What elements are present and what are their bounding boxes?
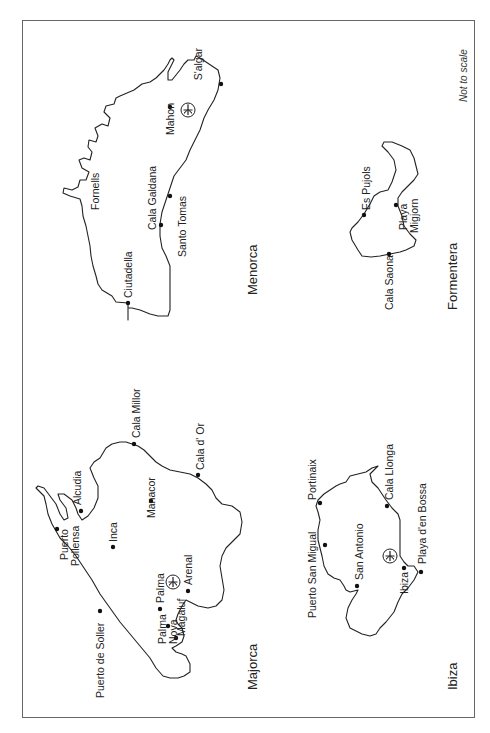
label-fornells: Fornells xyxy=(89,173,101,210)
label-salgar: S'algar xyxy=(192,47,204,80)
town-dot-portinaix xyxy=(318,501,322,505)
island-menorca: S'algar Mahon Cala Galdana Santo Tomas F… xyxy=(63,47,260,320)
label-playa-den-bossa: Playa d'en Bossa xyxy=(416,483,428,564)
label-ibiza-town: Ibiza xyxy=(398,572,410,594)
island-label-majorca: Majorca xyxy=(245,643,260,690)
town-dot-playa-den-bossa xyxy=(419,570,423,574)
town-dot-puerto-de-soller xyxy=(98,609,102,613)
town-dot-santo-tomas xyxy=(168,194,172,198)
town-dot-palma xyxy=(158,607,162,611)
town-dot-cala-millor xyxy=(132,442,136,446)
menorca-coastline xyxy=(63,56,220,320)
town-dot-puerto-san-migual xyxy=(323,543,327,547)
label-cala-galdana: Cala Galdana xyxy=(146,166,158,230)
island-formentera: Es Pujols Playa Migjorn Cala Saona Forme… xyxy=(350,142,460,310)
label-cala-dor: Cala d' Or xyxy=(194,423,206,470)
town-dot-cala-dor xyxy=(196,473,200,477)
label-mahon: Mahon xyxy=(164,103,176,135)
town-dot-alcudia xyxy=(79,509,83,513)
label-migjorn: Migjorn xyxy=(408,198,420,233)
town-dot-es-pujols xyxy=(362,213,366,217)
town-dot-cala-galdana xyxy=(159,223,163,227)
label-pollensa: Pollensa xyxy=(69,526,81,566)
label-manacor: Manacor xyxy=(145,477,157,518)
airport-icon-majorca xyxy=(166,575,180,589)
airport-icon-ibiza xyxy=(383,549,397,563)
label-ciutadella: Ciutadella xyxy=(122,251,134,298)
balearic-islands-map: S'algar Mahon Cala Galdana Santo Tomas F… xyxy=(0,0,490,733)
town-dot-arenal xyxy=(186,589,190,593)
label-cala-saona: Cala Saona xyxy=(383,255,395,310)
island-label-menorca: Menorca xyxy=(245,244,260,295)
town-dot-ibiza-town xyxy=(402,566,406,570)
label-palma: Palma xyxy=(154,573,166,603)
island-majorca: Cala Millor Cala d' Or Alcudia Manacor P… xyxy=(36,388,260,698)
label-palma-nova-line2: Nova xyxy=(167,619,179,644)
island-label-formentera: Formentera xyxy=(445,242,460,310)
not-to-scale-note: Not to scale xyxy=(458,49,469,102)
town-dot-salgar xyxy=(219,82,223,86)
label-puerto-san-migual: Puerto San Migual xyxy=(306,532,318,618)
label-cala-llonga: Cala Llonga xyxy=(383,444,395,500)
label-san-antonio: San Antonio xyxy=(353,523,365,580)
town-dot-cala-llonga xyxy=(385,504,389,508)
label-puerto-de-soller: Puerto de Soller xyxy=(94,622,106,698)
island-ibiza: Portinaix Cala Llonga Puerto San Migual … xyxy=(306,444,460,690)
town-dot-san-antonio xyxy=(355,584,359,588)
label-alcudia: Alcudia xyxy=(71,470,83,505)
label-inca: Inca xyxy=(107,522,119,542)
label-santo-tomas: Santo Tomas xyxy=(176,196,188,257)
town-dot-ciutadella xyxy=(126,301,130,305)
island-label-ibiza: Ibiza xyxy=(445,662,460,690)
label-arenal: Arenal xyxy=(182,555,194,585)
label-portinaix: Portinaix xyxy=(306,458,318,500)
label-cala-millor: Cala Millor xyxy=(130,388,142,438)
town-dot-inca xyxy=(111,545,115,549)
airport-icon-menorca xyxy=(181,103,195,117)
ibiza-coastline xyxy=(316,466,418,636)
label-es-pujols: Es Pujols xyxy=(360,166,372,210)
